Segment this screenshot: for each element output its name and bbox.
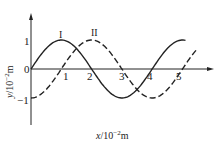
y-tick-neg1: −1 xyxy=(17,95,29,106)
y-axis-arrow-icon xyxy=(29,13,33,20)
x-tick-1: 1 xyxy=(63,71,69,82)
y-axis-var: y xyxy=(4,94,15,98)
y-axis-m: m xyxy=(4,66,15,74)
x-tick-3: 3 xyxy=(119,71,125,82)
x-axis-unit: /10 xyxy=(100,130,113,141)
x-tick-4: 4 xyxy=(147,71,153,82)
wave-diagram xyxy=(0,0,219,147)
y-axis-label: y/10−2m xyxy=(3,66,15,98)
y-tick-1: 1 xyxy=(24,36,30,47)
x-axis-m: m xyxy=(121,130,129,141)
x-tick-2: 2 xyxy=(87,71,93,82)
x-axis-label: x/10−2m xyxy=(96,130,128,141)
curve-I-label: I xyxy=(59,30,62,40)
y-axis-exp: −2 xyxy=(3,73,11,80)
curve-II-label: II xyxy=(91,28,98,38)
x-tick-5: 5 xyxy=(176,71,182,82)
origin-label: 0 xyxy=(24,64,30,75)
x-axis-arrow-icon xyxy=(207,67,214,71)
y-axis-unit: /10 xyxy=(4,81,15,94)
x-axis-exp: −2 xyxy=(113,129,120,137)
